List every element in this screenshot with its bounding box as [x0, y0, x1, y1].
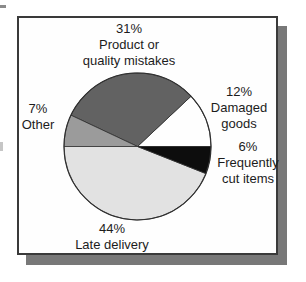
- slice-label-other: 7% Other: [8, 101, 68, 133]
- scan-artifact-top: [0, 5, 6, 8]
- pie-chart-container: [63, 72, 212, 221]
- slice-name: Other: [8, 117, 68, 133]
- slice-percent: 12%: [203, 84, 275, 100]
- slice-label-late-delivery: 44% Late delivery: [37, 221, 187, 253]
- slice-name: Frequently cut items: [208, 155, 288, 187]
- scan-artifact-left: [0, 142, 3, 151]
- slice-name: Late delivery: [37, 237, 187, 253]
- slice-name: Damaged goods: [203, 100, 275, 132]
- slice-percent: 31%: [53, 21, 205, 37]
- slice-percent: 6%: [208, 139, 288, 155]
- slice-percent: 7%: [8, 101, 68, 117]
- slice-label-frequently-cut-items: 6% Frequently cut items: [208, 139, 288, 187]
- slice-percent: 44%: [37, 221, 187, 237]
- slice-label-damaged-goods: 12% Damaged goods: [203, 84, 275, 132]
- slice-label-product-quality: 31% Product or quality mistakes: [53, 21, 205, 69]
- figure-canvas: 31% Product or quality mistakes 12% Dama…: [0, 0, 306, 282]
- pie-chart: [63, 72, 212, 221]
- slice-name: Product or quality mistakes: [53, 37, 205, 69]
